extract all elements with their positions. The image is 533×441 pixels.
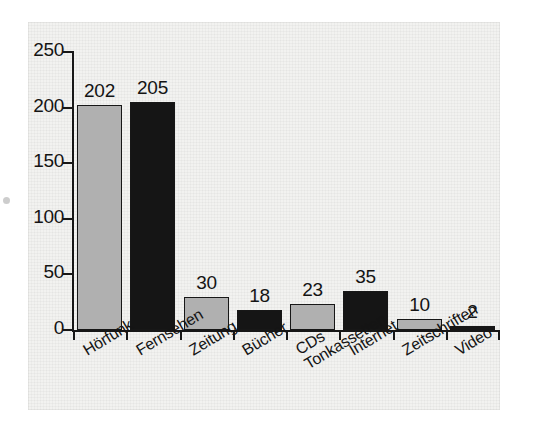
x-tick-0 [73,332,75,340]
bar-value-label-1: 205 [120,77,185,99]
x-tick-8 [498,332,500,340]
bar-1 [130,102,175,330]
bar-value-label-7: 2 [440,301,505,323]
bar-0 [77,105,122,330]
bar-value-label-5: 35 [333,266,398,288]
scanned-page: 050100150200250 HörfunkFernsehenZeitungB… [0,0,533,441]
bar-chart: 050100150200250 HörfunkFernsehenZeitungB… [0,0,533,441]
bars-layer [0,0,533,332]
